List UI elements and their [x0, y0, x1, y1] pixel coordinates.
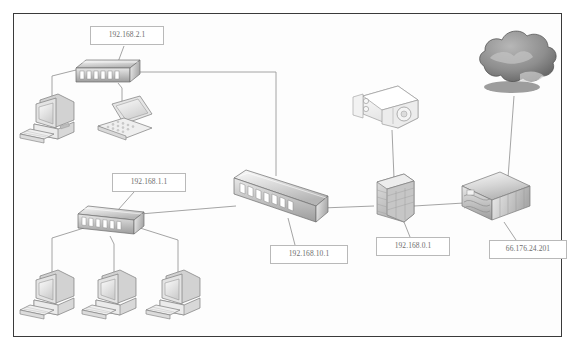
workstation-bottom-3-icon [146, 270, 200, 319]
ip-label-lan1-switch[interactable]: 192.168.1.1 [112, 173, 186, 192]
ip-label-firewall[interactable]: 192.168.0.1 [376, 237, 450, 256]
firewall-icon [377, 174, 414, 222]
ip-label-edge-router[interactable]: 66.176.24.201 [489, 240, 567, 259]
server-appliance-icon [353, 86, 418, 128]
workstation-bottom-1-icon [20, 270, 74, 319]
ip-label-lan2-switch[interactable]: 192.168.2.1 [90, 26, 164, 45]
network-diagram-canvas: 192.168.2.1 192.168.1.1 192.168.10.1 192… [0, 0, 576, 352]
edge-router-icon [462, 172, 530, 220]
lan1-switch-icon [78, 206, 144, 234]
workstation-top-left-icon [20, 94, 74, 143]
lan2-switch-icon [76, 60, 140, 82]
ip-label-core-switch[interactable]: 192.168.10.1 [270, 245, 348, 264]
core-switch-icon [234, 170, 328, 222]
device-icons-layer [0, 0, 576, 352]
laptop-top-left-icon [98, 96, 152, 140]
workstation-bottom-2-icon [82, 270, 136, 319]
internet-cloud-icon [480, 31, 557, 93]
